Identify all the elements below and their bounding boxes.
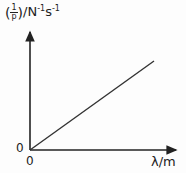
origin-label-x: 0 bbox=[26, 154, 34, 168]
fraction-denominator: p bbox=[10, 13, 17, 21]
exponent: -1 bbox=[37, 4, 45, 13]
origin-label-y: 0 bbox=[16, 141, 24, 155]
x-axis-label: λ/m bbox=[151, 154, 176, 169]
data-line bbox=[30, 61, 154, 150]
exponent: -1 bbox=[52, 4, 60, 13]
y-axis-label: (1p)/N-1s-1 bbox=[5, 4, 60, 21]
unit-n: /N bbox=[23, 4, 37, 19]
diagram: (1p)/N-1s-1 0 0 λ/m bbox=[0, 0, 186, 173]
unit-s: s bbox=[45, 4, 52, 19]
graph-canvas bbox=[0, 0, 186, 173]
